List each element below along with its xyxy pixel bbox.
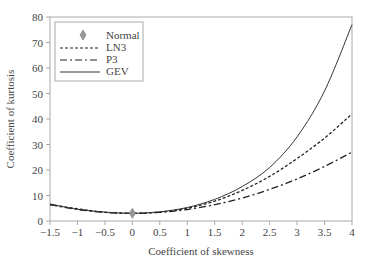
legend-p3: P3 xyxy=(106,53,118,65)
x-tick-label: 1 xyxy=(185,226,191,238)
y-tick-label: 60 xyxy=(32,62,44,74)
kurtosis-skewness-chart: 01020304050607080 −1.5−1−0.500.511.522.5… xyxy=(0,0,371,266)
x-tick-label: −0.5 xyxy=(95,226,115,238)
x-tick-label: −1.5 xyxy=(40,226,60,238)
x-tick-label: 1.5 xyxy=(208,226,222,238)
y-axis: 01020304050607080 xyxy=(32,11,50,227)
x-axis-label: Coefficient of skewness xyxy=(148,245,254,257)
y-tick-label: 30 xyxy=(32,139,44,151)
x-tick-label: 0.5 xyxy=(153,226,167,238)
x-tick-label: 2.5 xyxy=(263,226,277,238)
x-tick-label: 3 xyxy=(294,226,300,238)
legend-gev: GEV xyxy=(106,65,129,77)
legend-normal: Normal xyxy=(106,29,140,41)
x-tick-label: 4 xyxy=(349,226,355,238)
legend-ln3: LN3 xyxy=(106,41,127,53)
x-tick-label: 3.5 xyxy=(318,226,332,238)
y-tick-label: 10 xyxy=(32,190,44,202)
curve-ln3 xyxy=(50,114,352,213)
y-tick-label: 70 xyxy=(32,37,44,49)
diamond-icon xyxy=(129,208,135,218)
x-tick-label: −1 xyxy=(72,226,84,238)
y-tick-label: 50 xyxy=(32,88,44,100)
y-tick-label: 20 xyxy=(32,164,44,176)
x-tick-label: 0 xyxy=(130,226,136,238)
normal-marker xyxy=(129,208,135,218)
y-tick-label: 40 xyxy=(32,113,44,125)
y-axis-label: Coefficient of kurtosis xyxy=(4,70,16,169)
x-tick-label: 2 xyxy=(239,226,245,238)
legend: Normal LN3 P3 GEV xyxy=(55,22,143,81)
y-tick-label: 80 xyxy=(32,11,44,23)
x-axis: −1.5−1−0.500.511.522.533.54 xyxy=(40,221,355,238)
